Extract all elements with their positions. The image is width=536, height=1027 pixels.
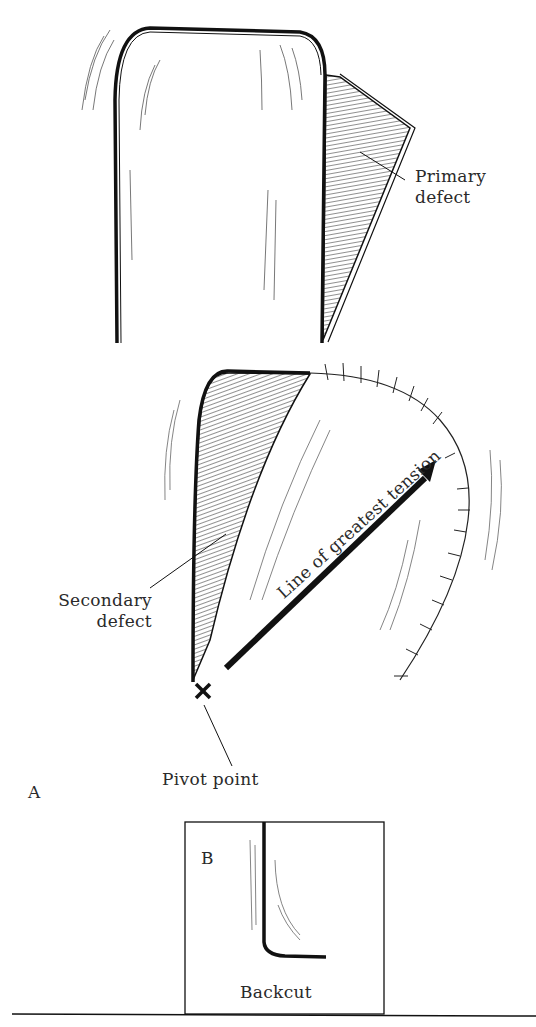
suture-line: [310, 373, 469, 680]
pivot-point-leader: [204, 705, 232, 766]
pivot-point-label: Pivot point: [162, 769, 259, 790]
top-digit-drawing: [82, 28, 415, 343]
secondary-defect-label: Secondary defect: [40, 590, 152, 632]
primary-defect-label: Primary defect: [415, 166, 486, 208]
secondary-defect-area: [193, 373, 310, 680]
pivot-point-marker: [196, 684, 210, 698]
backcut-label: Backcut: [240, 982, 312, 1003]
panel-b-letter: B: [201, 848, 214, 869]
baseline-rule: [12, 1014, 536, 1016]
backcut-incision: [264, 822, 326, 957]
panel-a-letter: A: [28, 782, 41, 803]
flap-illustration: [0, 0, 536, 1027]
